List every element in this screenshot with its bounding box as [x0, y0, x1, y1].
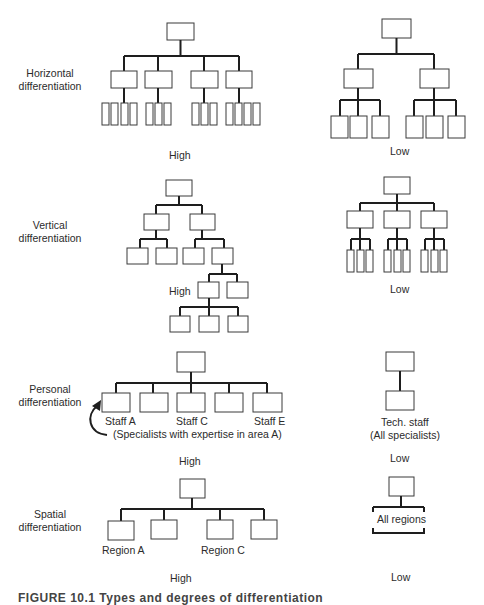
horizontal-high-label: High	[169, 149, 191, 162]
personal-high-label: High	[179, 455, 201, 468]
row-label-line: differentiation	[4, 521, 96, 534]
row-label-line: Horizontal	[4, 67, 96, 80]
spatial-high-label: High	[170, 572, 192, 585]
all-regions-label: All regions	[377, 513, 426, 526]
row-label-horizontal: Horizontal differentiation	[4, 67, 96, 93]
horizontal-low-chart	[331, 19, 465, 138]
region-a-label: Region A	[102, 544, 145, 557]
vertical-low-chart	[347, 177, 447, 272]
row-label-vertical: Vertical differentiation	[4, 219, 96, 245]
all-specialists-label: (All specialists)	[370, 429, 440, 442]
vertical-high-chart	[127, 180, 248, 332]
specialists-note: (Specialists with expertise in area A)	[113, 428, 282, 441]
figure-caption: FIGURE 10.1 Types and degrees of differe…	[18, 591, 323, 605]
staff-a-label: Staff A	[105, 415, 136, 428]
row-label-line: Personal	[4, 383, 96, 396]
vertical-high-label: High	[169, 285, 191, 298]
row-label-personal: Personal differentiation	[4, 383, 96, 409]
vertical-low-label: Low	[390, 283, 409, 296]
tech-staff-label: Tech. staff	[381, 416, 429, 429]
horizontal-low-label: Low	[390, 145, 409, 158]
row-label-line: differentiation	[4, 80, 96, 93]
personal-low-label: Low	[390, 452, 409, 465]
staff-e-label: Staff E	[254, 415, 285, 428]
horizontal-high-chart	[102, 23, 260, 125]
row-label-spatial: Spatial differentiation	[4, 508, 96, 534]
spatial-high-chart	[108, 479, 277, 540]
personal-low-chart	[386, 352, 414, 410]
row-label-line: differentiation	[4, 396, 96, 409]
region-c-label: Region C	[201, 544, 245, 557]
spatial-low-label: Low	[391, 571, 410, 584]
row-label-line: Spatial	[4, 508, 96, 521]
row-label-line: Vertical	[4, 219, 96, 232]
row-label-line: differentiation	[4, 232, 96, 245]
staff-c-label: Staff C	[176, 415, 208, 428]
